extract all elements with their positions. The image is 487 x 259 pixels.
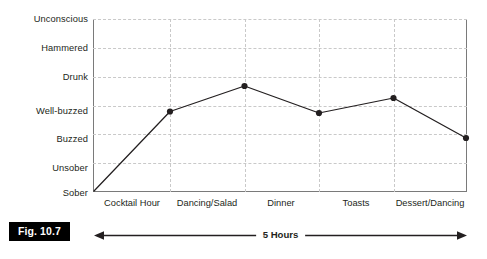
series-line — [94, 86, 466, 191]
x-axis-tick-toasts: Toasts — [343, 197, 370, 209]
duration-annotation: 5 Hours — [93, 226, 468, 246]
y-axis-tick-unsober: Unsober — [0, 163, 88, 173]
figure-number-badge: Fig. 10.7 — [9, 222, 70, 241]
data-point-dancing-salad — [241, 83, 247, 89]
data-point-cocktail-hour — [167, 108, 173, 114]
x-axis-tick-dessert-dancing: Dessert/Dancing — [396, 197, 465, 209]
y-axis-labels: Unconscious Hammered Drunk Well-buzzed B… — [0, 0, 88, 259]
x-axis-tick-dancing-salad: Dancing/Salad — [177, 197, 237, 209]
duration-label: 5 Hours — [256, 228, 306, 241]
x-axis-tick-dinner: Dinner — [267, 197, 294, 209]
intoxication-line-series — [87, 13, 473, 198]
y-axis-tick-hammered: Hammered — [0, 43, 88, 53]
data-point-toasts — [390, 95, 396, 101]
y-axis-tick-well-buzzed: Well-buzzed — [0, 106, 88, 116]
x-axis-labels: Cocktail Hour Dancing/Salad Dinner Toast… — [0, 197, 487, 213]
y-axis-tick-drunk: Drunk — [0, 72, 88, 82]
data-point-dinner — [316, 110, 322, 116]
plot-area — [93, 19, 467, 192]
y-axis-tick-unconscious: Unconscious — [0, 14, 88, 24]
data-point-dessert-dancing — [463, 135, 469, 141]
figure-10-7: Unconscious Hammered Drunk Well-buzzed B… — [0, 0, 487, 259]
y-axis-tick-buzzed: Buzzed — [0, 134, 88, 144]
x-axis-tick-cocktail-hour: Cocktail Hour — [104, 197, 160, 209]
